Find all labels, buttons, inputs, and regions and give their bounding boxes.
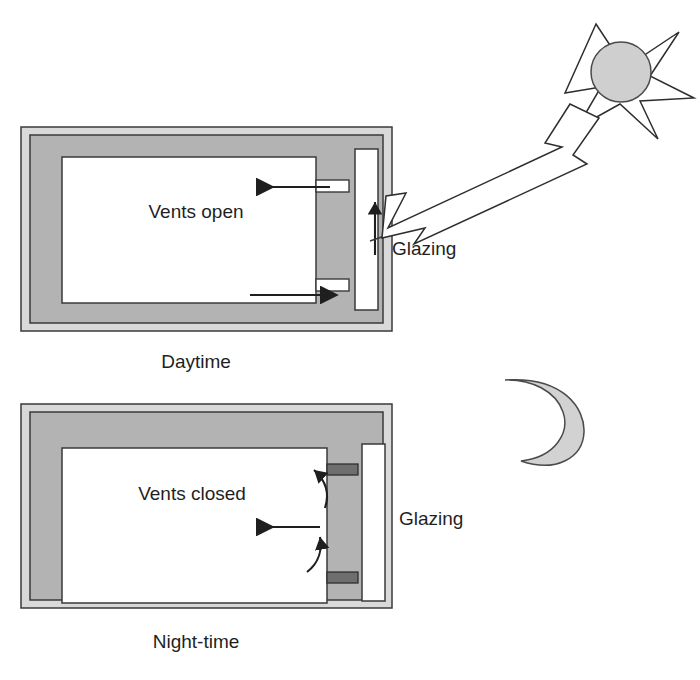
nighttime-caption: Night-time	[153, 631, 240, 652]
sun-disc	[591, 42, 651, 102]
moon-crescent	[505, 380, 584, 466]
trombe-wall-diagram: Vents open Glazing Daytime	[0, 0, 700, 680]
nighttime-room-cavity	[62, 448, 327, 603]
daytime-vents-label: Vents open	[148, 201, 243, 222]
solar-ray-arrow-icon	[382, 104, 599, 244]
crescent-moon-icon	[505, 380, 584, 466]
daytime-vent-lower-open	[316, 279, 349, 291]
nighttime-glazing-label: Glazing	[399, 508, 463, 529]
diagram-canvas: Vents open Glazing Daytime	[0, 0, 700, 680]
nighttime-vent-lower-closed	[327, 572, 358, 583]
daytime-room-cavity	[62, 157, 316, 303]
nighttime-vents-label: Vents closed	[138, 483, 246, 504]
panel-daytime: Vents open Glazing Daytime	[21, 127, 456, 372]
daytime-glazing-label: Glazing	[392, 238, 456, 259]
panel-night-time: Vents closed Glazing Night-time	[21, 404, 463, 652]
nighttime-vent-upper-closed	[327, 464, 358, 475]
nighttime-glazing-pane	[362, 444, 385, 601]
daytime-caption: Daytime	[161, 351, 231, 372]
